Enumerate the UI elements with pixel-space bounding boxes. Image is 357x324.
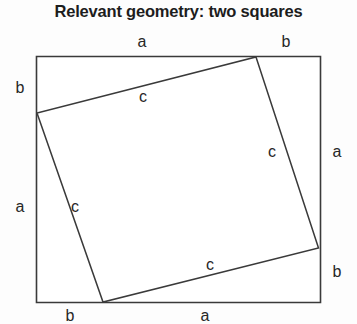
segment-label-hyp-bottom: c <box>206 257 214 273</box>
segment-label-bottom-a: a <box>201 308 210 324</box>
segment-label-left-a: a <box>16 199 25 215</box>
segment-label-top-b: b <box>282 34 291 50</box>
segment-label-bottom-b: b <box>66 308 75 324</box>
diagram-page: Relevant geometry: two squares abbaabbac… <box>0 0 357 324</box>
segment-label-top-a: a <box>138 34 147 50</box>
segment-label-hyp-right: c <box>268 144 276 160</box>
geometry-figure <box>0 0 357 324</box>
segment-label-left-b: b <box>16 80 25 96</box>
outer-square-shape <box>37 57 321 303</box>
segment-label-right-a: a <box>333 144 342 160</box>
segment-label-hyp-top: c <box>139 89 147 105</box>
segment-label-hyp-left: c <box>71 199 79 215</box>
segment-label-right-b: b <box>333 264 342 280</box>
